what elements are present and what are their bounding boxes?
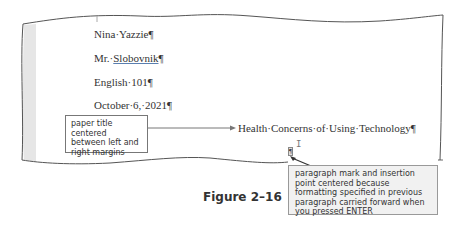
i-beam-cursor-icon: I: [296, 139, 301, 149]
callout-paper-title: paper title centered between left and ri…: [65, 115, 148, 153]
figure-caption: Figure 2–16: [203, 190, 282, 204]
author-name: Nina·Yazzie: [94, 28, 148, 40]
date-text: October·6,·2021: [94, 99, 167, 111]
paragraph-mark: ¶: [167, 99, 172, 111]
paragraph-mark: ¶: [158, 52, 163, 64]
course-name: English·101: [94, 76, 148, 88]
doc-line-date[interactable]: October·6,·2021¶: [94, 99, 172, 111]
instructor-name: Slobovnik: [113, 52, 158, 64]
insertion-point-paragraph-mark[interactable]: ¶: [288, 147, 293, 156]
callout-paragraph-mark: paragraph mark and insertion point cente…: [288, 165, 438, 215]
left-margin-shade: [22, 24, 36, 162]
instructor-prefix: Mr.·: [94, 52, 113, 64]
doc-line-course[interactable]: English·101¶: [94, 76, 153, 88]
paragraph-mark: ¶: [148, 28, 153, 40]
paper-title: Health·Concerns·of·Using·Technology: [238, 122, 411, 134]
doc-line-instructor[interactable]: Mr.·Slobovnik¶: [94, 52, 163, 64]
doc-line-title[interactable]: Health·Concerns·of·Using·Technology¶: [238, 122, 416, 134]
doc-line-author[interactable]: Nina·Yazzie¶: [94, 28, 153, 40]
paragraph-mark: ¶: [411, 122, 416, 134]
paragraph-mark: ¶: [148, 76, 153, 88]
